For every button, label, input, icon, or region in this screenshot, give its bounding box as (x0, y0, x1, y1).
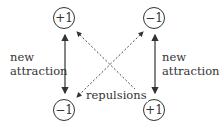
left-label-line2: attraction (10, 65, 68, 78)
repulsions-label: repulsions (85, 89, 148, 102)
node-top-right: −1 (143, 7, 165, 29)
node-top-left: +1 (53, 7, 75, 29)
right-label-line1: new (162, 51, 186, 64)
node-bottom-right: +1 (143, 99, 165, 121)
left-label-line1: new (10, 51, 34, 64)
right-label-line2: attraction (162, 65, 219, 78)
node-bottom-left: −1 (53, 99, 75, 121)
